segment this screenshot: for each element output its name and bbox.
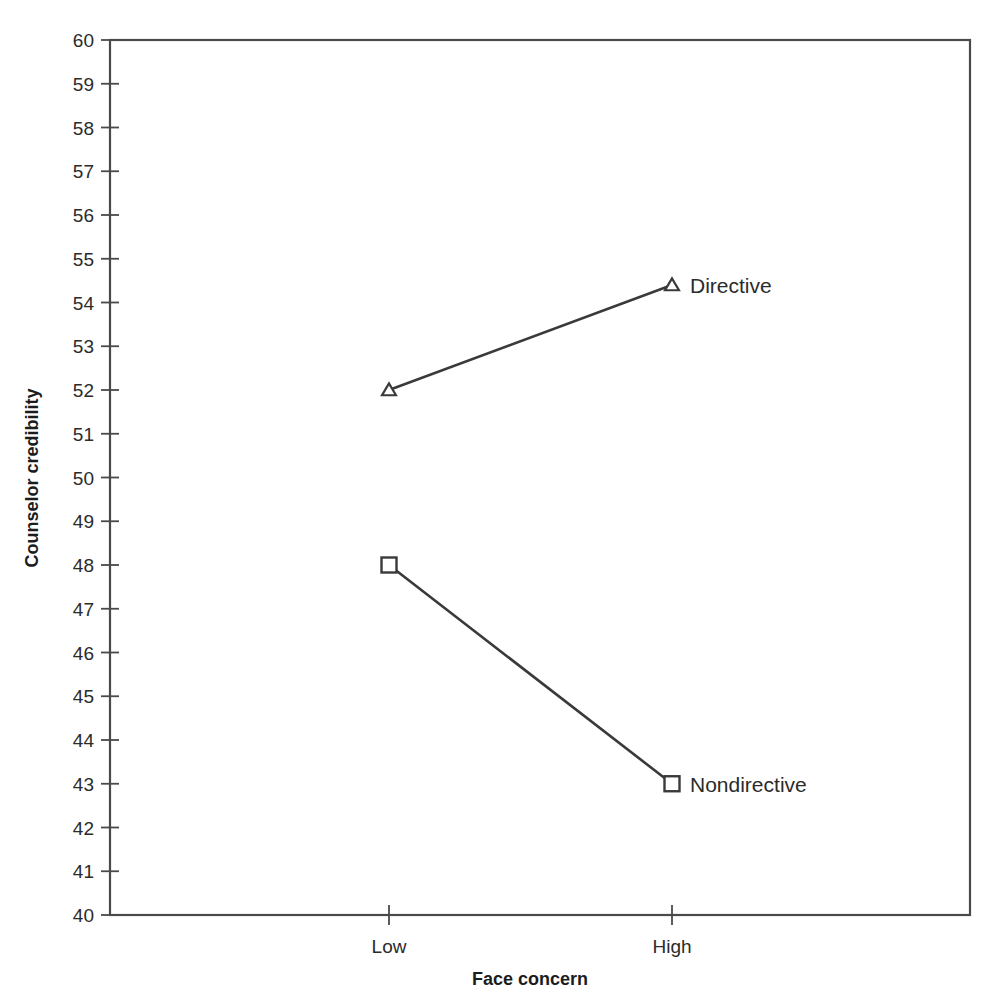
y-tick-label: 45 xyxy=(73,686,94,707)
data-series-layer xyxy=(382,278,680,791)
y-tick-label: 48 xyxy=(73,555,94,576)
y-tick-label: 50 xyxy=(73,468,94,489)
line-chart: 6059585756555453525150494847464544434241… xyxy=(0,0,986,1005)
data-point-marker-square xyxy=(382,558,397,573)
y-tick-label: 59 xyxy=(73,74,94,95)
y-tick-label: 51 xyxy=(73,424,94,445)
series-inline-labels: DirectiveNondirective xyxy=(690,274,807,796)
chart-container: 6059585756555453525150494847464544434241… xyxy=(0,0,986,1005)
y-tick-label: 52 xyxy=(73,380,94,401)
x-tick-label: High xyxy=(652,936,691,957)
series-line-nondirective xyxy=(389,565,672,784)
y-tick-label: 47 xyxy=(73,599,94,620)
y-tick-label: 56 xyxy=(73,205,94,226)
x-axis-ticks: LowHigh xyxy=(372,905,692,957)
y-tick-label: 44 xyxy=(73,730,95,751)
x-axis-title: Face concern xyxy=(472,969,588,989)
data-point-marker-triangle xyxy=(665,278,679,290)
series-label-nondirective: Nondirective xyxy=(690,773,807,796)
y-tick-label: 49 xyxy=(73,511,94,532)
y-tick-label: 54 xyxy=(73,293,95,314)
y-tick-label: 53 xyxy=(73,336,94,357)
plot-frame xyxy=(110,40,970,915)
y-axis-ticks: 6059585756555453525150494847464544434241… xyxy=(73,30,119,926)
y-tick-label: 58 xyxy=(73,118,94,139)
series-label-directive: Directive xyxy=(690,274,772,297)
y-axis-title: Counselor credibility xyxy=(22,388,42,567)
data-point-marker-square xyxy=(665,776,680,791)
x-tick-label: Low xyxy=(372,936,407,957)
y-tick-label: 43 xyxy=(73,774,94,795)
y-tick-label: 40 xyxy=(73,905,94,926)
y-tick-label: 60 xyxy=(73,30,94,51)
y-tick-label: 42 xyxy=(73,818,94,839)
y-tick-label: 41 xyxy=(73,861,94,882)
y-tick-label: 55 xyxy=(73,249,94,270)
y-tick-label: 57 xyxy=(73,161,94,182)
series-line-directive xyxy=(389,285,672,390)
y-tick-label: 46 xyxy=(73,643,94,664)
